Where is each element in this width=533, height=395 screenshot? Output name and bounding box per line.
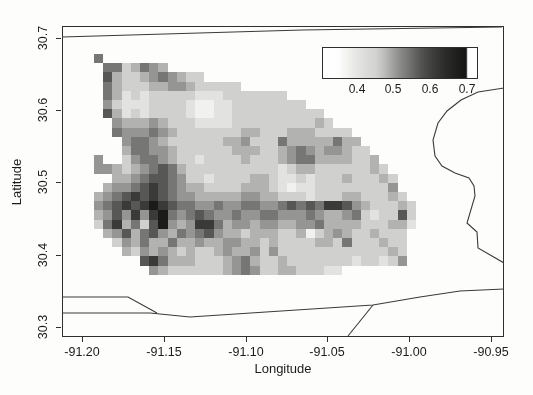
y-tick-mark bbox=[56, 255, 61, 256]
colorbar-tick-label: 0.6 bbox=[422, 82, 439, 96]
y-tick-mark bbox=[56, 38, 61, 39]
y-tick-label: 30.6 bbox=[36, 98, 50, 122]
y-tick-label: 30.7 bbox=[36, 26, 50, 50]
x-tick-mark bbox=[327, 337, 328, 342]
colorbar-legend bbox=[322, 47, 478, 79]
y-tick-label: 30.4 bbox=[36, 243, 50, 267]
x-tick-mark bbox=[409, 337, 410, 342]
x-tick-label: -91.00 bbox=[391, 345, 426, 359]
colorbar-tick-label: 0.4 bbox=[349, 82, 366, 96]
x-tick-label: -91.20 bbox=[64, 345, 99, 359]
x-tick-mark bbox=[491, 337, 492, 342]
x-axis-title: Longitude bbox=[254, 361, 311, 376]
x-tick-label: -91.10 bbox=[228, 345, 263, 359]
x-tick-mark bbox=[82, 337, 83, 342]
heatmap-figure: 0.40.50.60.7 -91.20-91.15-91.10-91.05-91… bbox=[0, 0, 533, 395]
x-tick-label: -91.05 bbox=[309, 345, 344, 359]
colorbar-tick-label: 0.5 bbox=[385, 82, 402, 96]
y-axis-title: Latitude bbox=[9, 158, 24, 204]
y-tick-label: 30.5 bbox=[36, 170, 50, 194]
x-tick-mark bbox=[164, 337, 165, 342]
x-tick-label: -90.95 bbox=[473, 345, 508, 359]
x-tick-mark bbox=[246, 337, 247, 342]
y-tick-mark bbox=[56, 182, 61, 183]
colorbar-tick-label: 0.7 bbox=[459, 82, 476, 96]
y-tick-label: 30.3 bbox=[36, 315, 50, 339]
x-tick-label: -91.15 bbox=[146, 345, 181, 359]
y-tick-mark bbox=[56, 110, 61, 111]
y-tick-mark bbox=[56, 327, 61, 328]
